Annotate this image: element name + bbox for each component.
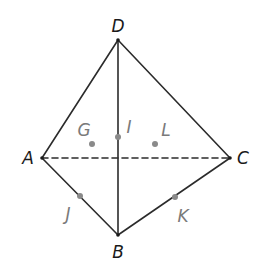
label-a: A xyxy=(21,148,34,168)
edge-da xyxy=(42,40,118,158)
point-labels: G I L J K xyxy=(62,117,190,226)
label-k: K xyxy=(177,206,190,226)
edge-dc xyxy=(118,40,230,158)
vertex-a-dot xyxy=(40,156,44,160)
point-j-dot xyxy=(77,193,83,199)
point-l-dot xyxy=(152,141,158,147)
point-g-dot xyxy=(89,141,95,147)
label-b: B xyxy=(112,242,124,262)
label-g: G xyxy=(77,120,90,140)
label-c: C xyxy=(237,148,249,168)
label-l: L xyxy=(161,120,170,140)
vertex-b-dot xyxy=(116,233,120,237)
point-dots xyxy=(77,134,178,200)
vertex-c-dot xyxy=(228,156,232,160)
label-d: D xyxy=(111,16,124,36)
vertex-labels: D A C B xyxy=(21,16,249,262)
point-k-dot xyxy=(172,194,178,200)
label-j: J xyxy=(62,204,70,224)
tetrahedron-diagram: D A C B G I L J K xyxy=(0,0,266,275)
point-i-dot xyxy=(115,134,121,140)
vertex-d-dot xyxy=(116,38,120,42)
label-i: I xyxy=(126,117,131,137)
